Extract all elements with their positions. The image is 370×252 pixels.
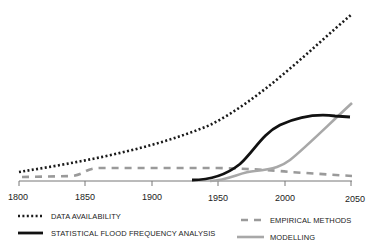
series-empirical-methods [22,168,352,177]
legend-label: MODELLING [270,233,315,242]
legend-label: STATISTICAL FLOOD FREQUENCY ANALYSIS [51,229,215,238]
x-tick-label: 2050 [345,194,365,204]
legend-item-statistical-ffa: STATISTICAL FLOOD FREQUENCY ANALYSIS [18,229,215,238]
chart-canvas: 1800 1850 1900 1950 2000 2050 DATA AVAIL… [0,0,370,252]
x-tick-label: 1900 [142,192,162,202]
legend-item-data-availability: DATA AVAILABILITY [18,212,121,221]
x-tick-label: 1850 [75,192,95,202]
legend-label: DATA AVAILABILITY [51,212,121,221]
x-tick-label: 1800 [8,192,28,202]
legend-item-modelling: MODELLING [237,233,315,242]
legend-label: EMPIRICAL METHODS [270,216,351,225]
x-tick-label: 2000 [275,193,295,203]
x-tick-label: 1950 [208,193,228,203]
legend-item-empirical-methods: EMPIRICAL METHODS [241,216,351,225]
legend: DATA AVAILABILITY STATISTICAL FLOOD FREQ… [18,212,351,242]
x-axis: 1800 1850 1900 1950 2000 2050 [8,181,365,204]
